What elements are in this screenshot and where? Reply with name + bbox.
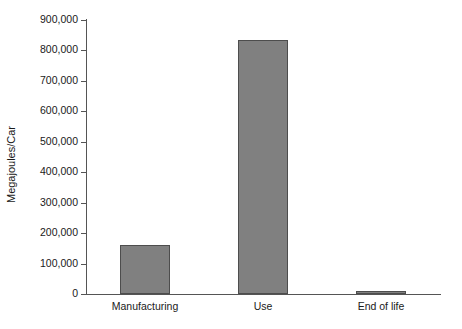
y-tick-label: 300,000 [6,197,78,208]
y-tick-label: 500,000 [6,136,78,147]
y-tick-label: 100,000 [6,258,78,269]
bar-manufacturing [120,245,170,294]
y-tick-mark [81,81,86,82]
y-tick-label: 600,000 [6,105,78,116]
y-tick-mark [81,264,86,265]
bar-use [238,40,288,294]
y-tick-mark [81,111,86,112]
y-tick-mark [81,203,86,204]
y-tick-mark [81,20,86,21]
y-tick-mark [81,172,86,173]
y-tick-mark [81,233,86,234]
y-tick-mark [81,294,86,295]
y-tick-label: 900,000 [6,14,78,25]
x-tick-label: End of life [322,300,440,312]
x-axis-line [86,294,441,295]
y-tick-label: 200,000 [6,227,78,238]
y-tick-label: 400,000 [6,166,78,177]
y-tick-label: 0 [6,288,78,299]
y-tick-mark [81,50,86,51]
y-axis-line [86,19,87,295]
y-tick-mark [81,142,86,143]
bar-chart: Megajoules/Car 0100,000200,000300,000400… [0,0,462,329]
y-tick-label: 800,000 [6,44,78,55]
y-tick-label: 700,000 [6,75,78,86]
bar-end-of-life [356,291,406,294]
x-tick-label: Manufacturing [86,300,204,312]
x-tick-label: Use [204,300,322,312]
